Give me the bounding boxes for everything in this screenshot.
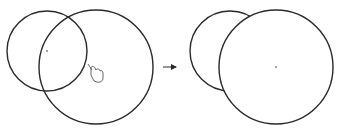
after-large-center-dot xyxy=(275,66,277,68)
hand-pointer-icon xyxy=(88,64,103,82)
before-panel xyxy=(7,10,153,124)
diagram-canvas xyxy=(0,0,341,136)
before-large-circle[interactable] xyxy=(39,10,153,124)
after-panel xyxy=(190,10,333,124)
before-small-center-dot xyxy=(46,50,48,52)
